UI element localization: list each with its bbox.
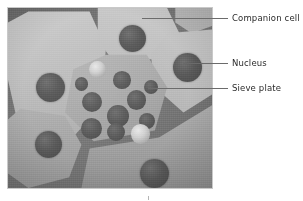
sieve-pore-pore-3	[127, 90, 147, 110]
nucleus-nucleus-right	[173, 53, 202, 82]
sieve-pore-pore-2	[113, 71, 131, 89]
nucleus-nucleus-top-mid	[119, 25, 146, 52]
nucleus-nucleus-top-left	[36, 73, 65, 102]
label-sieve-plate: Sieve plate	[232, 83, 281, 93]
leader-line-companion-cell	[142, 18, 228, 19]
droplet-droplet-lower	[131, 124, 150, 143]
leader-line-nucleus	[183, 63, 228, 64]
sieve-pore-pore-9	[75, 77, 89, 91]
figure-root: Companion cellNucleusSieve plate	[0, 0, 303, 201]
leader-line-sieve-plate	[148, 88, 228, 89]
sieve-pore-pore-1	[82, 92, 102, 112]
droplet-droplet-upper	[89, 61, 106, 78]
label-companion-cell: Companion cell	[232, 13, 300, 23]
label-nucleus: Nucleus	[232, 58, 267, 68]
scale-tick-mark	[148, 196, 149, 200]
micrograph-panel	[8, 8, 212, 188]
